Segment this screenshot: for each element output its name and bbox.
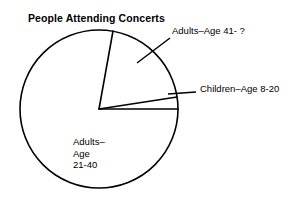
pie-chart-figure: People Attending Concerts Adults–Age 41-… — [0, 0, 300, 209]
slice-label-adults-41: Adults–Age 41- ? — [172, 26, 245, 36]
slice-label-adults-21-40-line2: Age — [73, 148, 105, 160]
slice-label-adults-21-40-line3: 21-40 — [73, 159, 105, 171]
pie-chart-graphic — [0, 0, 300, 209]
slice-label-adults-21-40-line1: Adults– — [73, 136, 105, 148]
slice-label-adults-21-40: Adults– Age 21-40 — [73, 136, 105, 171]
slice-label-children: Children–Age 8-20 — [200, 84, 279, 94]
